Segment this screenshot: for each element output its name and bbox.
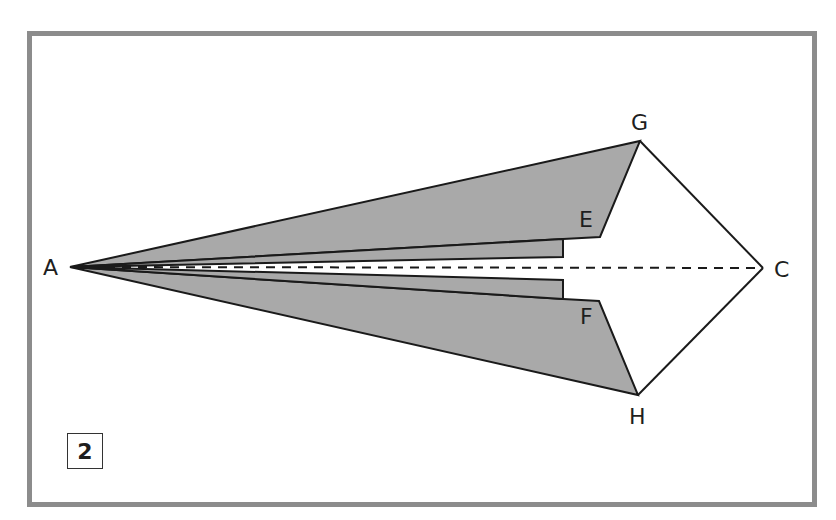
label-c: C bbox=[774, 257, 789, 282]
step-number-badge: 2 bbox=[67, 433, 103, 469]
label-f: F bbox=[580, 304, 593, 329]
label-h: H bbox=[629, 404, 646, 429]
label-e: E bbox=[579, 207, 593, 232]
label-a: A bbox=[43, 255, 58, 280]
fold-diagram: A C G E F H bbox=[0, 0, 836, 520]
label-g: G bbox=[631, 110, 648, 135]
step-number: 2 bbox=[77, 439, 92, 464]
